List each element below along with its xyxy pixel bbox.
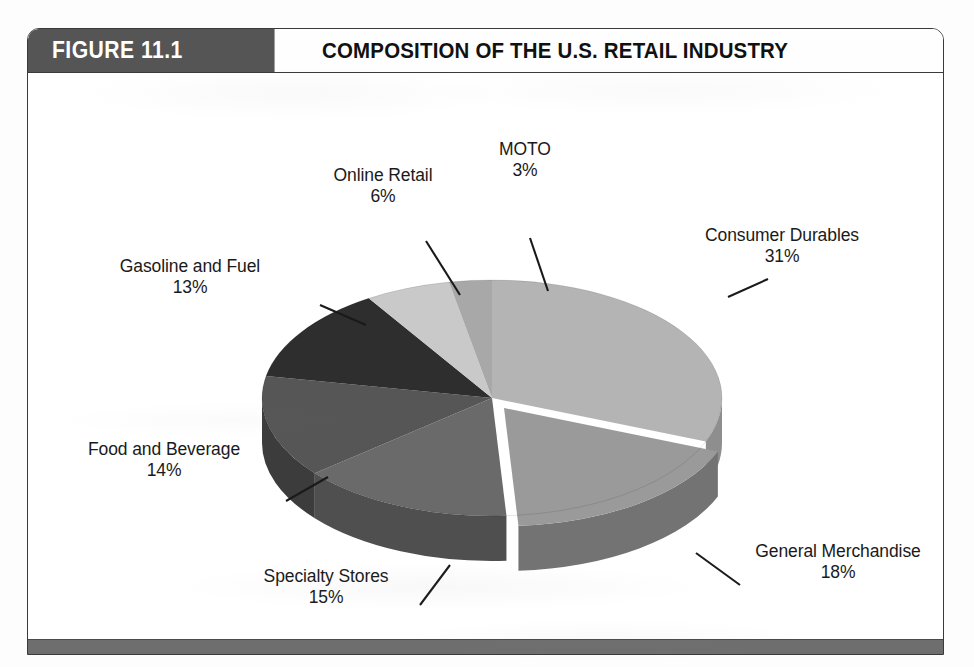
label-gasoline-fuel: Gasoline and Fuel 13% (90, 256, 290, 299)
label-specialty-stores-pct: 15% (230, 587, 422, 608)
figure-number-badge: FIGURE 11.1 (28, 29, 275, 72)
label-general-merchandise-name: General Merchandise (755, 541, 920, 561)
label-online-retail-pct: 6% (303, 186, 463, 207)
leader-specialty (420, 565, 450, 605)
figure-footer-rule (28, 639, 943, 655)
label-moto: MOTO 3% (470, 139, 580, 182)
label-online-retail: Online Retail 6% (303, 165, 463, 208)
label-food-beverage: Food and Beverage 14% (50, 439, 278, 482)
label-moto-name: MOTO (499, 139, 551, 159)
label-consumer-durables: Consumer Durables 31% (682, 225, 882, 268)
label-consumer-durables-name: Consumer Durables (705, 225, 859, 245)
pie-chart: MOTO 3% Online Retail 6% Gasoline and Fu… (28, 73, 943, 655)
label-consumer-durables-pct: 31% (682, 246, 882, 267)
label-general-merchandise: General Merchandise 18% (733, 541, 943, 584)
label-general-merchandise-pct: 18% (733, 562, 943, 583)
label-moto-pct: 3% (470, 160, 580, 181)
label-gasoline-fuel-pct: 13% (90, 277, 290, 298)
figure-header: FIGURE 11.1 COMPOSITION OF THE U.S. RETA… (28, 29, 943, 73)
label-food-beverage-pct: 14% (50, 460, 278, 481)
label-food-beverage-name: Food and Beverage (88, 439, 240, 459)
figure-body: MOTO 3% Online Retail 6% Gasoline and Fu… (28, 73, 943, 655)
figure-box: FIGURE 11.1 COMPOSITION OF THE U.S. RETA… (27, 28, 944, 655)
label-specialty-stores-name: Specialty Stores (264, 566, 389, 586)
label-specialty-stores: Specialty Stores 15% (230, 566, 422, 609)
figure-title: COMPOSITION OF THE U.S. RETAIL INDUSTRY (296, 29, 898, 72)
label-gasoline-fuel-name: Gasoline and Fuel (120, 256, 260, 276)
label-online-retail-name: Online Retail (334, 165, 433, 185)
leader-consumer (728, 279, 768, 297)
